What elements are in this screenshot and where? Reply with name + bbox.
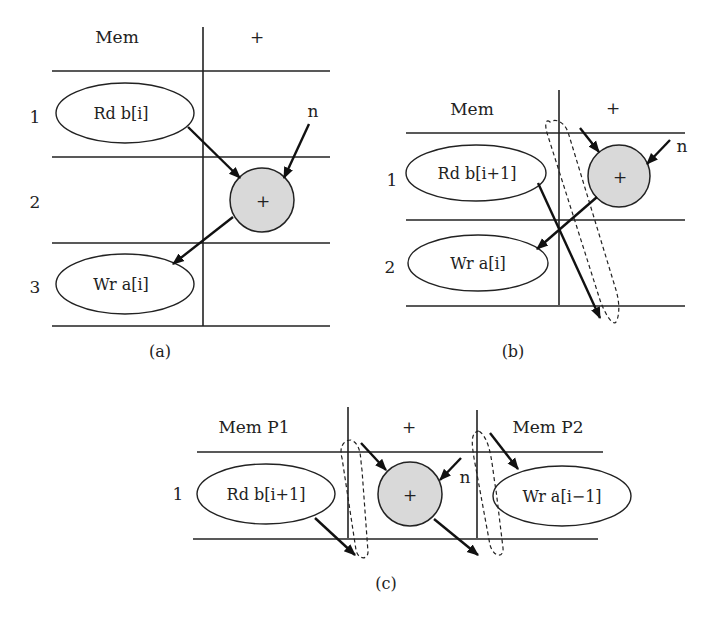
dashed-dependency-region-1: [341, 440, 368, 558]
caption-c: (c): [375, 574, 396, 593]
column-header-add: +: [606, 98, 620, 118]
arrow-n-to-add: [647, 140, 670, 164]
row-label-1: 1: [30, 107, 41, 127]
read-node-label: Rd b[i+1]: [227, 485, 306, 504]
arrow-add-to-write: [537, 197, 597, 249]
add-node-label: +: [403, 485, 417, 505]
arrow-p1-to-add: [361, 443, 386, 470]
arrow-n-to-add: [440, 458, 461, 480]
add-node-label: +: [256, 191, 270, 211]
write-node-label: Wr a[i−1]: [522, 487, 601, 506]
column-header-add: +: [402, 417, 416, 437]
panel-b: Mem + 1 2 Rd b[i+1] + Wr a[i] n (b): [385, 90, 688, 361]
arrow-read-to-add: [188, 127, 240, 178]
arrow-n-to-add: [284, 124, 309, 178]
row-label-3: 3: [30, 277, 41, 297]
read-node-label: Rd b[i+1]: [438, 164, 517, 183]
caption-b: (b): [502, 342, 525, 361]
arrow-read-to-next: [315, 518, 355, 555]
column-header-mem: Mem: [450, 99, 494, 119]
write-node-label: Wr a[i]: [450, 254, 506, 273]
input-n-label: n: [677, 136, 688, 156]
column-header-mem: Mem: [95, 27, 139, 47]
pipeline-diagram: Mem + 1 2 3 Rd b[i] + Wr a[i] n (a) Mem …: [0, 0, 707, 620]
arrow-prev-to-add: [580, 128, 599, 152]
write-node-label: Wr a[i]: [93, 275, 149, 294]
read-node-label: Rd b[i]: [93, 104, 148, 123]
caption-a: (a): [149, 342, 171, 361]
column-header-mem-p2: Mem P2: [512, 417, 583, 437]
column-header-add: +: [250, 27, 264, 47]
input-n-label: n: [308, 101, 319, 121]
panel-a: Mem + 1 2 3 Rd b[i] + Wr a[i] n (a): [30, 27, 330, 361]
arrow-add-to-next: [434, 519, 478, 555]
arrow-into-write: [490, 433, 518, 469]
row-label-1: 1: [173, 484, 184, 504]
add-node-label: +: [613, 167, 627, 187]
panel-c: Mem P1 + Mem P2 1 Rd b[i+1] + Wr a[i−1] …: [173, 407, 631, 593]
row-label-2: 2: [30, 192, 41, 212]
row-label-2: 2: [385, 257, 396, 277]
input-n-label: n: [460, 467, 471, 487]
column-header-mem-p1: Mem P1: [218, 417, 289, 437]
row-label-1: 1: [387, 170, 398, 190]
